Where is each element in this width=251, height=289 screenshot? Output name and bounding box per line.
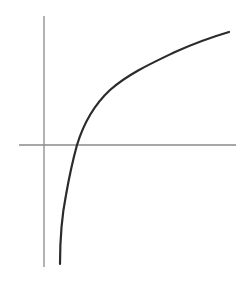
- log-curve: [60, 32, 229, 264]
- chart-canvas: [0, 0, 251, 289]
